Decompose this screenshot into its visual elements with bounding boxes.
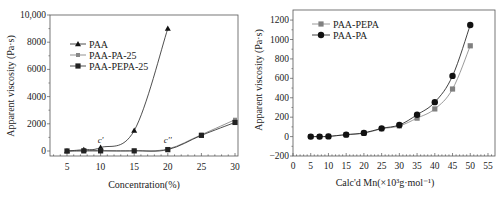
y-tick-label: 8000 <box>27 37 46 47</box>
x-tick-label: 30 <box>230 162 240 172</box>
x-tick-label: 20 <box>359 161 369 171</box>
series-paa-pepa <box>308 43 473 139</box>
legend-label: PAA-PEPA-25 <box>89 61 148 72</box>
y-tick-label: 1200 <box>270 15 289 25</box>
y-tick-label: 400 <box>275 93 290 103</box>
y-axis-label: Apparent viscosity (Pa·s) <box>5 35 17 137</box>
chart-canvas: 510152025300200040006000800010,000Concen… <box>0 0 501 199</box>
legend-label: PAA-PA-25 <box>89 50 137 61</box>
x-tick-label: 55 <box>483 161 493 171</box>
x-tick-label: 5 <box>65 162 70 172</box>
x-tick-label: 15 <box>129 162 139 172</box>
annotation: c'' <box>164 135 173 145</box>
y-tick-label: 4000 <box>27 92 46 102</box>
y-tick-label: 2000 <box>27 119 46 129</box>
x-tick-label: 25 <box>377 161 387 171</box>
x-axis-label: Calc'd Mn(×10³g·mol⁻¹) <box>336 177 435 189</box>
y-tick-label: 6000 <box>27 64 46 74</box>
x-tick-label: 40 <box>430 161 440 171</box>
legend-right: PAA-PEPAPAA-PA <box>312 19 380 41</box>
plot-frame-right <box>293 10 495 156</box>
chart-right: 0510152025303540455055−20002004006008001… <box>253 10 495 189</box>
legend-left: PAAPAA-PA-25PAA-PEPA-25 <box>70 39 148 72</box>
plot-frame-left <box>50 15 238 156</box>
y-tick-label: −200 <box>269 151 289 161</box>
x-axis-label: Concentration(%) <box>108 179 180 191</box>
series-paa-pepa-25 <box>64 120 237 154</box>
y-tick-label: 0 <box>284 132 289 142</box>
x-tick-label: 30 <box>395 161 405 171</box>
x-tick-label: 10 <box>324 161 334 171</box>
y-tick-label: 10,000 <box>20 10 46 20</box>
y-tick-label: 0 <box>41 146 46 156</box>
x-tick-label: 25 <box>197 162 207 172</box>
x-tick-label: 10 <box>96 162 106 172</box>
x-tick-label: 5 <box>308 161 313 171</box>
x-tick-label: 20 <box>163 162 173 172</box>
x-tick-label: 45 <box>448 161 458 171</box>
x-tick-label: 35 <box>412 161 422 171</box>
y-tick-label: 800 <box>275 54 290 64</box>
legend-label: PAA <box>89 39 109 50</box>
legend-label: PAA-PA <box>333 30 368 41</box>
series-paa-pa-25 <box>65 118 237 153</box>
x-tick-label: 50 <box>466 161 476 171</box>
y-tick-label: 600 <box>275 73 290 83</box>
legend-label: PAA-PEPA <box>333 19 380 30</box>
annotation: c' <box>98 135 105 145</box>
chart-left: 510152025300200040006000800010,000Concen… <box>5 10 240 191</box>
y-tick-label: 200 <box>275 112 290 122</box>
x-tick-label: 0 <box>291 161 296 171</box>
y-tick-label: 1000 <box>270 35 289 45</box>
x-tick-label: 15 <box>341 161 351 171</box>
y-axis-label: Apparent viscosity (Pa·s) <box>253 29 265 131</box>
